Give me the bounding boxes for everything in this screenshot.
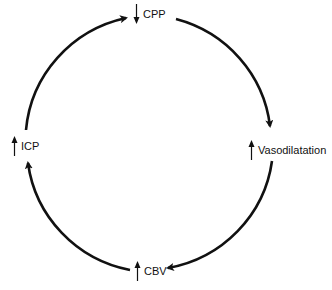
node-cbv: CBV	[134, 261, 167, 281]
arrow-cpp-to-vasodilatation	[176, 19, 270, 126]
up-arrow-icon	[134, 261, 141, 281]
node-cpp: CPP	[133, 4, 166, 24]
node-icp: ICP	[11, 136, 39, 156]
up-arrow-icon	[11, 136, 18, 156]
arrow-vasodilatation-to-cbv	[168, 161, 272, 268]
node-label: CPP	[143, 9, 166, 20]
node-label: Vasodilatation	[258, 145, 326, 156]
down-arrow-icon	[133, 4, 140, 24]
up-arrow-icon	[248, 140, 255, 160]
arrow-icp-to-cpp	[26, 18, 126, 130]
node-label: CBV	[144, 266, 167, 277]
node-vasodilatation: Vasodilatation	[248, 140, 326, 160]
arrow-cbv-to-icp	[28, 163, 130, 270]
node-label: ICP	[21, 141, 39, 152]
